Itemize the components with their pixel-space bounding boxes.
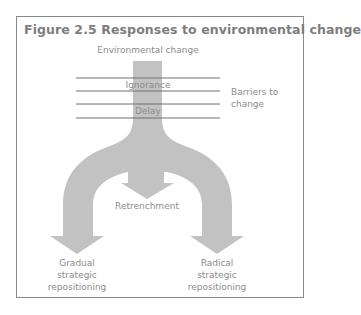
gradual-label-line1: Gradual: [37, 257, 117, 269]
barrier-delay-label: Delay: [117, 105, 179, 117]
barriers-to-change-label-line1: Barriers to: [231, 86, 278, 98]
radical-arrowhead: [190, 236, 244, 254]
radical-label-line2: strategic: [177, 269, 257, 281]
environmental-change-label: Environmental change: [97, 44, 199, 56]
gradual-label-line2: strategic: [37, 269, 117, 281]
gradual-arrowhead: [50, 236, 104, 254]
barriers-to-change-label-line2: change: [231, 98, 264, 110]
retrenchment-arrow: [121, 168, 174, 199]
barrier-ignorance-label: Ignorance: [117, 79, 179, 91]
radical-label-line1: Radical: [177, 257, 257, 269]
radical-label-line3: repositioning: [177, 281, 257, 293]
retrenchment-label: Retrenchment: [111, 200, 183, 212]
gradual-label-line3: repositioning: [37, 281, 117, 293]
